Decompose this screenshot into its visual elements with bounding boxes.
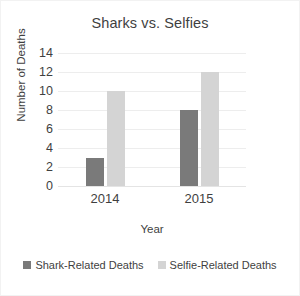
legend-item-selfie[interactable]: Selfie-Related Deaths (158, 259, 277, 271)
bar-selfie-2014[interactable] (107, 91, 125, 186)
chart-container: Sharks vs. Selfies Number of Deaths 14 1… (0, 0, 300, 296)
bar-shark-2015[interactable] (180, 110, 198, 186)
y-tick-label: 12 (39, 65, 53, 79)
legend-item-shark[interactable]: Shark-Related Deaths (23, 259, 143, 271)
bars-layer (58, 53, 246, 186)
x-axis-tick-labels: 2014 2015 (58, 191, 246, 206)
x-tick-label-2014: 2014 (58, 191, 152, 206)
y-axis-tick-labels: 14 12 10 8 6 4 2 0 (25, 53, 53, 186)
gridline-baseline (58, 186, 246, 187)
x-axis-title: Year (58, 223, 246, 235)
y-tick-label: 2 (46, 160, 53, 174)
chart-legend: Shark-Related Deaths Selfie-Related Deat… (1, 259, 299, 271)
legend-label: Shark-Related Deaths (35, 259, 143, 271)
bar-group-2014 (58, 53, 152, 186)
y-tick-label: 4 (46, 141, 53, 155)
x-tick-label-2015: 2015 (152, 191, 246, 206)
y-tick-label: 14 (39, 46, 53, 60)
bar-group-2015 (152, 53, 246, 186)
legend-label: Selfie-Related Deaths (170, 259, 277, 271)
bar-shark-2014[interactable] (86, 158, 104, 187)
plot-area (58, 53, 246, 186)
y-tick-label: 0 (46, 179, 53, 193)
bar-selfie-2015[interactable] (201, 72, 219, 186)
y-tick-label: 6 (46, 122, 53, 136)
y-tick-label: 10 (39, 84, 53, 98)
y-tick-label: 8 (46, 103, 53, 117)
chart-title: Sharks vs. Selfies (1, 15, 299, 31)
legend-swatch-icon (158, 261, 166, 269)
legend-swatch-icon (23, 261, 31, 269)
